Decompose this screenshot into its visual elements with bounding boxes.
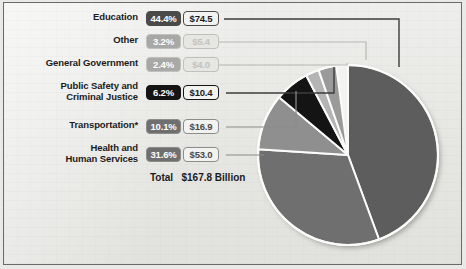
percent-badge[interactable]: 6.2% <box>146 85 181 100</box>
amount-badge[interactable]: $5.4 <box>183 34 219 49</box>
chart-figure: Education44.4%$74.5Other3.2%$5.4General … <box>0 0 466 269</box>
legend-label: Public Safety and Criminal Justice <box>61 81 139 102</box>
legend-label: General Government <box>46 58 138 69</box>
legend-label: Other <box>113 35 138 46</box>
legend-badges: 2.4%$4.0 <box>146 57 219 72</box>
pie-svg <box>0 0 466 269</box>
legend-badges: 10.1%$16.9 <box>146 119 219 134</box>
legend-badges: 31.6%$53.0 <box>146 147 219 162</box>
percent-badge[interactable]: 2.4% <box>146 57 181 72</box>
legend-badges: 3.2%$5.4 <box>146 34 219 49</box>
legend-label: Health and Human Services <box>65 143 138 164</box>
pie-chart <box>0 0 466 269</box>
legend-badges: 44.4%$74.5 <box>146 11 219 26</box>
percent-badge[interactable]: 3.2% <box>146 34 181 49</box>
amount-badge[interactable]: $16.9 <box>183 119 219 134</box>
legend-label: Education <box>93 12 138 23</box>
legend-label: Transportation* <box>69 120 138 131</box>
percent-badge[interactable]: 44.4% <box>146 11 181 26</box>
amount-badge[interactable]: $4.0 <box>183 57 219 72</box>
percent-badge[interactable]: 31.6% <box>146 147 181 162</box>
amount-badge[interactable]: $10.4 <box>183 85 219 100</box>
total-label: Total $167.8 Billion <box>150 172 245 183</box>
legend-badges: 6.2%$10.4 <box>146 85 219 100</box>
percent-badge[interactable]: 10.1% <box>146 119 181 134</box>
amount-badge[interactable]: $53.0 <box>183 147 219 162</box>
amount-badge[interactable]: $74.5 <box>183 11 219 26</box>
